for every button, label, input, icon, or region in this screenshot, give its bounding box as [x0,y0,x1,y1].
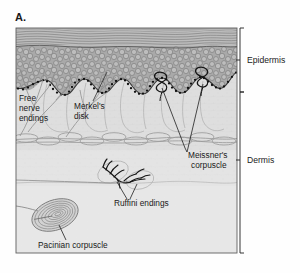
diagram-body: Free nerve endings Merkel's disk Meissne… [14,28,239,253]
figure-panel: A. [0,0,300,273]
free-nerve-endings-line-2: nerve [19,103,40,113]
dermis-label: Dermis [247,155,274,165]
merkels-disk-line-1: Merkel's [74,101,105,111]
stratum-corneum [14,28,239,48]
epidermis-label: Epidermis [247,55,285,65]
annotation-meissners-corpuscle: Meissner's corpuscle [188,150,227,170]
meissners-corpuscle-line-1: Meissner's [188,150,227,160]
merkels-disk-line-2: disk [74,111,90,121]
free-nerve-endings-line-1: Free [19,93,36,103]
annotation-pacinian-corpuscle: Pacinian corpuscle [38,240,108,250]
meissners-corpuscle-line-2: corpuscle [191,160,227,170]
annotation-ruffini-endings: Ruffini endings [114,198,169,208]
skin-cross-section-diagram: A. [0,0,300,273]
free-nerve-endings-line-3: endings [19,113,48,123]
ruffini-endings-line-1: Ruffini endings [114,198,169,208]
panel-label: A. [15,11,26,23]
pacinian-corpuscle-line-1: Pacinian corpuscle [38,240,108,250]
